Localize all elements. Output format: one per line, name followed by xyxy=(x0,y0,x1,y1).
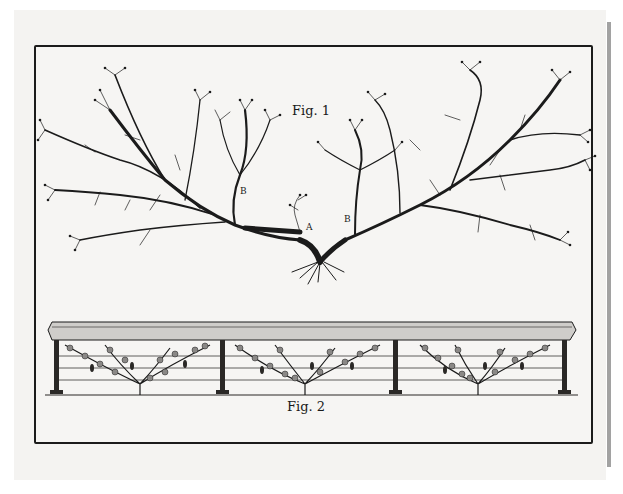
fig1-caption: Fig. 1 xyxy=(292,103,330,118)
espalier-vines xyxy=(65,345,550,395)
fig1-vine-tree xyxy=(37,61,597,284)
fig2-trellis xyxy=(45,322,578,395)
engraving-artwork xyxy=(0,0,623,494)
fig2-caption: Fig. 2 xyxy=(287,399,325,414)
trellis-roof xyxy=(48,322,576,340)
marker-a: A xyxy=(306,222,313,232)
vine-leaves xyxy=(67,343,548,381)
marker-b-right: B xyxy=(344,214,351,224)
roots xyxy=(292,262,344,284)
marker-b-left: B xyxy=(240,186,247,196)
